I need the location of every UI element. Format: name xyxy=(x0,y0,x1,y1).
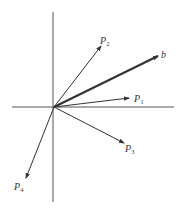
vector-p4-subscript: 4 xyxy=(21,187,24,193)
vector-p1-subscript: 1 xyxy=(141,99,144,105)
vector-p2-subscript: 2 xyxy=(107,41,110,47)
vector-p4-arrow xyxy=(26,107,54,178)
vector-p4-label: P4 xyxy=(13,181,24,193)
vector-p3-arrow xyxy=(54,107,124,143)
vector-diagram: bP1P2P3P4 xyxy=(0,0,181,210)
vectors-layer xyxy=(26,46,158,178)
vector-p3-label: P3 xyxy=(124,143,135,155)
vector-p2-label: P2 xyxy=(99,35,110,47)
labels-layer: bP1P2P3P4 xyxy=(13,35,166,193)
vector-p2-arrow xyxy=(54,46,101,107)
vector-p1-label: P1 xyxy=(133,93,144,105)
diagram-canvas: bP1P2P3P4 xyxy=(0,0,181,210)
vector-p3-subscript: 3 xyxy=(132,149,135,155)
vector-b-label: b xyxy=(161,49,166,60)
